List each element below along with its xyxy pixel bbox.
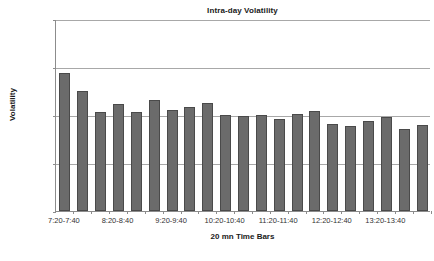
x-tick-mark (323, 211, 324, 214)
bar (417, 125, 428, 211)
x-tick-mark (216, 211, 217, 214)
x-tick-mark (288, 211, 289, 214)
x-tick-mark (109, 211, 110, 214)
x-tick-label: 8:20-8:40 (102, 216, 134, 225)
bar (256, 115, 267, 211)
y-tick-mark (53, 20, 56, 21)
x-tick-mark (91, 211, 92, 214)
y-tick-mark (53, 164, 56, 165)
bar (220, 115, 231, 211)
x-tick-label: 13:20-13:40 (365, 216, 405, 225)
x-tick-mark (181, 211, 182, 214)
y-tick-mark (53, 212, 56, 213)
bar (202, 103, 213, 211)
x-tick-label: 10:20-10:40 (205, 216, 245, 225)
bar (77, 91, 88, 211)
x-tick-mark (341, 211, 342, 214)
bar (238, 116, 249, 211)
plot-area: 0.20%0.15%0.10%0.05%0.00% (55, 20, 430, 212)
x-tick-mark (234, 211, 235, 214)
bar (381, 117, 392, 211)
bar (274, 119, 285, 211)
x-tick-label: 11:20-11:40 (259, 216, 298, 225)
x-tick-mark (413, 211, 414, 214)
bar (309, 111, 320, 211)
x-tick-mark (127, 211, 128, 214)
x-tick-mark (306, 211, 307, 214)
x-tick-label: 9:20-9:40 (155, 216, 187, 225)
bar (184, 107, 195, 211)
x-tick-mark (359, 211, 360, 214)
bar (292, 114, 303, 211)
x-tick-mark (198, 211, 199, 214)
x-tick-mark (395, 211, 396, 214)
x-axis-title: 20 mn Time Bars (55, 232, 430, 241)
y-tick-mark (53, 68, 56, 69)
x-tick-mark (145, 211, 146, 214)
x-tick-label: 12:20-12:40 (312, 216, 352, 225)
bar (345, 126, 356, 211)
bar (363, 121, 374, 211)
chart-container: Intra-day Volatility Volatility 0.20%0.1… (0, 0, 434, 261)
bar (167, 110, 178, 211)
bar (113, 104, 124, 211)
x-tick-label: 7:20-7:40 (48, 216, 80, 225)
x-tick-mark (431, 211, 432, 214)
y-axis-title: Volatility (8, 75, 17, 135)
gridline (56, 68, 430, 69)
chart-title: Intra-day Volatility (55, 6, 430, 15)
bar (131, 112, 142, 211)
bar (399, 129, 410, 211)
bar (95, 112, 106, 211)
bar (59, 73, 70, 211)
bar (149, 100, 160, 211)
y-tick-mark (53, 116, 56, 117)
x-tick-mark (163, 211, 164, 214)
x-tick-mark (270, 211, 271, 214)
x-tick-mark (377, 211, 378, 214)
bar (327, 124, 338, 211)
x-tick-mark (252, 211, 253, 214)
x-tick-mark (73, 211, 74, 214)
gridline (56, 20, 430, 21)
